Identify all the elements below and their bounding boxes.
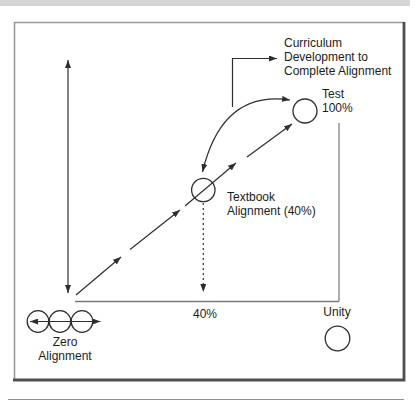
textbook-point-label: Textbook Alignment (40%) bbox=[227, 190, 316, 218]
test-point-label: Test 100% bbox=[322, 87, 353, 115]
unity-label: Unity bbox=[316, 305, 358, 319]
curriculum-development-annotation: Curriculum Development to Complete Align… bbox=[284, 36, 391, 78]
diagonal-arrow-4-to-test bbox=[247, 124, 292, 157]
diagonal-arrow-2 bbox=[130, 210, 180, 250]
x-axis-tick-40pct: 40% bbox=[184, 307, 226, 321]
diagonal-arrow-1 bbox=[76, 257, 121, 295]
test-point-circle bbox=[293, 99, 317, 123]
zero-alignment-label: Zero Alignment bbox=[25, 335, 105, 363]
callout-elbow-arrow bbox=[233, 59, 278, 108]
footer-rule bbox=[8, 399, 404, 400]
figure-canvas: Curriculum Development to Complete Align… bbox=[0, 0, 419, 406]
unity-point-circle bbox=[325, 326, 350, 351]
